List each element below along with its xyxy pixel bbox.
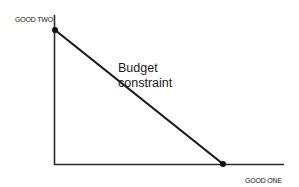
y-intercept-point [52,27,58,33]
y-axis-label: GOOD TWO [15,16,54,23]
budget-line-label-line1: Budget [118,61,158,75]
budget-constraint-diagram: GOOD TWO GOOD ONE Budget constraint [0,0,299,187]
x-intercept-point [220,161,226,167]
budget-line [55,30,223,164]
x-axis-label: GOOD ONE [245,177,282,184]
budget-line-label-line2: constraint [118,76,173,90]
